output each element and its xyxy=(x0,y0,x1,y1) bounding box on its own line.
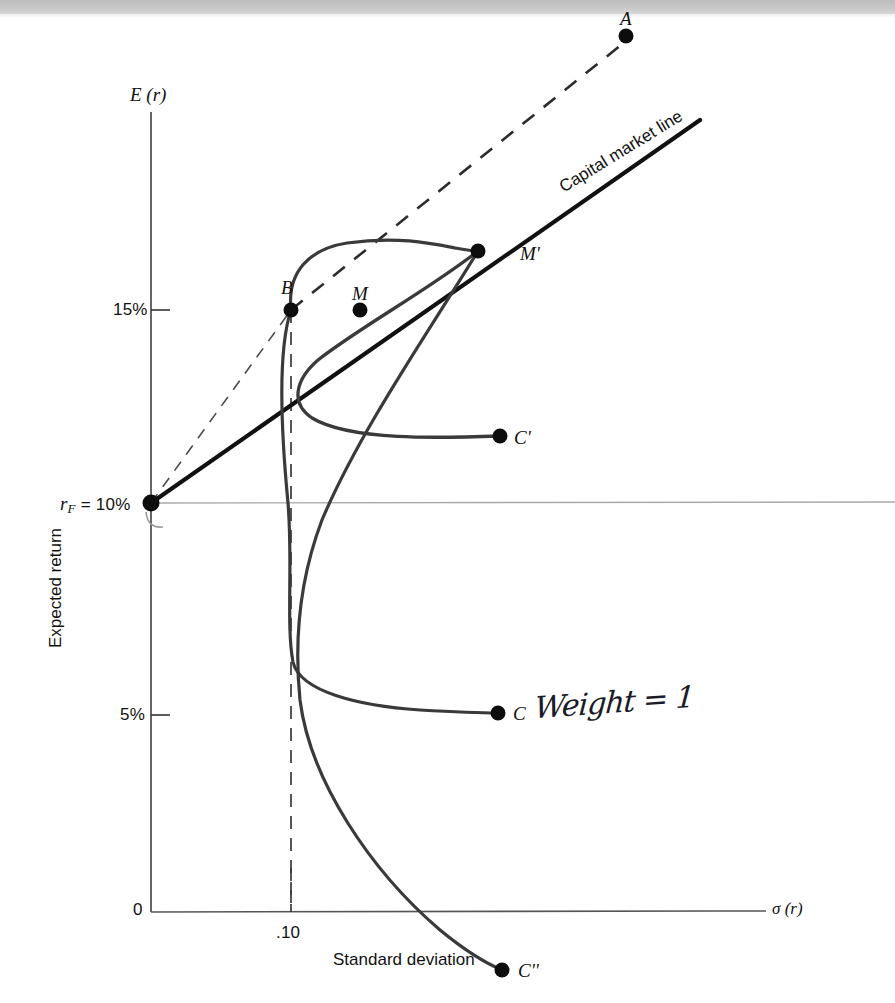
rf-hook-mark xyxy=(146,512,163,527)
x-axis-symbol-label: σ (r) xyxy=(772,899,803,919)
x-axis-line xyxy=(151,911,718,912)
point-label-A: A xyxy=(620,8,632,30)
point-Cprime-dot xyxy=(493,429,508,444)
y-tick-label-5pct: 5% xyxy=(120,705,145,725)
rf-subscript: F xyxy=(68,501,76,516)
point-rF-dot xyxy=(143,495,160,512)
chart-canvas xyxy=(0,0,895,1003)
point-Cdoubleprime-dot xyxy=(495,963,510,978)
y-tick-label-15pct: 15% xyxy=(113,300,148,320)
point-Mprime-dot xyxy=(471,244,486,259)
point-B-dot xyxy=(284,303,299,318)
point-label-M: M xyxy=(352,283,368,305)
capital-market-line xyxy=(151,120,700,503)
point-label-C: C xyxy=(513,703,526,725)
frontier-curve-Mprime-to-Cdoubleprime xyxy=(298,251,502,970)
frontier-curve-B-to-Mprime xyxy=(291,240,478,310)
point-A-dot xyxy=(619,29,634,44)
y-tick-label-rf: rF= 10% xyxy=(60,493,130,517)
x-tick-label-010: .10 xyxy=(276,923,300,943)
point-label-Cprime: C' xyxy=(514,427,531,449)
tangent-line-to-B-dashed xyxy=(151,310,291,503)
point-C-dot xyxy=(491,706,506,721)
rf-value: = 10% xyxy=(81,495,131,514)
risk-free-level-line xyxy=(151,502,895,503)
y-tick-label-zero: 0 xyxy=(133,900,143,920)
figure-page: E (r) σ (r) Expected return Standard dev… xyxy=(0,0,895,1003)
point-label-Cdoubleprime: C'' xyxy=(518,960,539,982)
y-axis-title: Expected return xyxy=(46,528,66,648)
x-axis-title: Standard deviation xyxy=(333,950,475,970)
point-label-Mprime: M' xyxy=(520,243,540,265)
rf-symbol: r xyxy=(60,493,68,514)
y-axis-symbol-label: E (r) xyxy=(130,84,166,106)
point-label-B: B xyxy=(281,277,293,299)
frontier-curve-B-to-C xyxy=(282,310,498,713)
